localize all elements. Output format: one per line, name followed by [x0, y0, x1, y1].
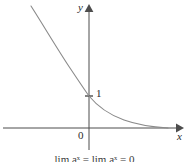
x-axis-label: x [177, 131, 182, 142]
y-intercept-label: 1 [96, 88, 102, 99]
origin-label: 0 [78, 130, 84, 141]
exponential-decay-figure: y x 0 1 lim aˣ = lim aˣ = 0 [0, 0, 189, 162]
exponential-curve [31, 6, 168, 128]
figure-caption: lim aˣ = lim aˣ = 0 [0, 153, 189, 162]
plot-canvas [0, 0, 189, 162]
y-axis-label: y [78, 2, 83, 13]
y-axis-arrow-icon [85, 4, 94, 12]
